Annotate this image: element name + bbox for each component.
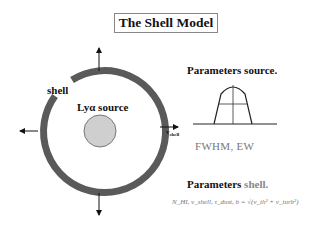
line-profile-icon bbox=[193, 85, 277, 124]
lya-source-label: Lyα source bbox=[77, 101, 128, 113]
shell-label: shell bbox=[47, 84, 68, 96]
parameters-shell-heading: Parameters shell. bbox=[187, 178, 268, 190]
lya-source-circle bbox=[84, 115, 116, 147]
profile-caption: FWHM, EW bbox=[195, 140, 254, 152]
velocity-label: vshell bbox=[166, 128, 179, 137]
shell-formula: N_HI, v_shell, τ_dust, b = √(v_th² + v_t… bbox=[172, 198, 299, 206]
parameters-source-heading: Parameters source. bbox=[187, 64, 277, 76]
shell-diagram bbox=[0, 0, 313, 226]
